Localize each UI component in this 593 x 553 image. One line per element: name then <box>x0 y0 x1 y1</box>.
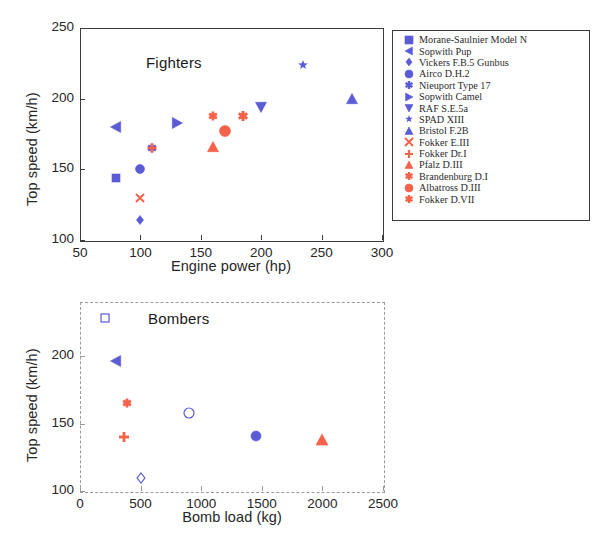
data-point-marker <box>134 471 148 485</box>
y-tick-label: 200 <box>22 347 74 362</box>
x-tick-label: 100 <box>110 245 170 260</box>
data-point-marker <box>249 429 263 443</box>
legend-item-label: Airco D.H.2 <box>419 68 470 79</box>
data-point-marker <box>134 163 147 176</box>
data-point-marker <box>217 124 232 139</box>
legend-item-label: Fokker E.III <box>419 137 469 148</box>
y-tick-mark <box>80 424 85 425</box>
y-tick-label: 250 <box>22 19 74 34</box>
legend-marker-icon <box>399 34 419 46</box>
fighters-legend: Morane-Saulnier Model NSopwith PupVicker… <box>392 30 590 221</box>
data-point-marker <box>109 354 124 369</box>
y-tick-mark <box>80 356 85 357</box>
x-tick-label: 2000 <box>292 496 352 511</box>
x-tick-label: 200 <box>231 245 291 260</box>
y-tick-label: 100 <box>22 231 74 246</box>
x-tick-mark <box>201 235 202 240</box>
legend-item[interactable]: Nieuport Type 17 <box>393 80 589 91</box>
legend-marker-icon <box>399 182 419 194</box>
legend-marker-icon <box>399 102 419 114</box>
legend-marker-icon <box>399 56 419 68</box>
x-tick-mark <box>140 235 141 240</box>
legend-item-label: Bristol F.2B <box>419 125 469 136</box>
legend-item-label: Sopwith Pup <box>419 46 471 57</box>
legend-item-label: Sopwith Camel <box>419 91 482 102</box>
legend-marker-icon <box>399 45 419 57</box>
x-tick-mark <box>382 235 383 240</box>
data-point-marker <box>134 192 146 204</box>
data-point-marker <box>109 119 124 134</box>
data-point-marker <box>296 58 310 72</box>
legend-marker-icon <box>399 91 419 103</box>
legend-marker-icon <box>399 148 419 160</box>
legend-item[interactable]: Sopwith Camel <box>393 91 589 102</box>
y-tick-label: 100 <box>22 482 74 497</box>
data-point-marker <box>121 397 134 410</box>
legend-marker-icon <box>399 125 419 137</box>
data-point-marker <box>314 432 330 448</box>
y-tick-label: 150 <box>22 415 74 430</box>
data-point-marker <box>146 142 159 155</box>
fighters-y-axis-title: Top speed (km/h) <box>24 92 40 206</box>
y-tick-mark <box>80 491 85 492</box>
data-point-marker <box>254 100 269 115</box>
legend-item-label: Pfalz D.III <box>419 159 463 170</box>
x-tick-label: 250 <box>292 245 352 260</box>
legend-item[interactable]: Morane-Saulnier Model N <box>393 34 589 45</box>
legend-marker-icon <box>399 136 419 148</box>
legend-item[interactable]: Fokker D.VII <box>393 193 589 204</box>
legend-marker-icon <box>399 68 419 80</box>
legend-item-label: Morane-Saulnier Model N <box>419 34 527 45</box>
legend-item-label: Fokker D.VII <box>419 194 474 205</box>
y-tick-label: 200 <box>22 90 74 105</box>
bombers-x-axis-title: Bomb load (kg) <box>134 509 330 525</box>
x-tick-mark <box>201 486 202 491</box>
data-point-marker <box>110 172 122 184</box>
y-tick-mark <box>80 99 85 100</box>
y-tick-mark <box>80 28 85 29</box>
legend-item[interactable]: Albatross D.III <box>393 182 589 193</box>
x-tick-mark <box>383 486 384 491</box>
x-tick-mark <box>322 235 323 240</box>
data-point-marker <box>117 430 131 444</box>
legend-marker-icon <box>399 193 419 205</box>
x-tick-mark <box>262 486 263 491</box>
legend-item[interactable]: Sopwith Pup <box>393 45 589 56</box>
x-tick-label: 0 <box>50 496 110 511</box>
legend-item[interactable]: Airco D.H.2 <box>393 68 589 79</box>
fighters-panel: Fighters Engine power (hp) Top speed (km… <box>0 0 593 280</box>
bombers-y-axis-title: Top speed (km/h) <box>24 348 40 462</box>
legend-item[interactable]: RAF S.E.5a <box>393 102 589 113</box>
data-point-marker <box>169 115 184 130</box>
legend-item[interactable]: Brandenburg D.I <box>393 171 589 182</box>
fighters-chart-label: Fighters <box>146 54 202 71</box>
legend-marker-icon <box>399 113 419 125</box>
x-tick-mark <box>322 486 323 491</box>
legend-item-label: SPAD XIII <box>419 114 464 125</box>
data-point-marker <box>99 312 111 324</box>
legend-item-label: Brandenburg D.I <box>419 171 488 182</box>
legend-marker-icon <box>399 79 419 91</box>
x-tick-label: 500 <box>111 496 171 511</box>
x-tick-mark <box>261 235 262 240</box>
data-point-marker <box>134 214 147 227</box>
data-point-marker <box>236 109 250 123</box>
bombers-panel: Bombers Bomb load (kg) Top speed (km/h) … <box>0 280 593 553</box>
y-tick-mark <box>80 169 85 170</box>
legend-item-label: Nieuport Type 17 <box>419 80 491 91</box>
legend-item[interactable]: Vickers F.B.5 Gunbus <box>393 57 589 68</box>
data-point-marker <box>206 109 219 122</box>
legend-item[interactable]: SPAD XIII <box>393 114 589 125</box>
legend-item[interactable]: Fokker Dr.I <box>393 148 589 159</box>
legend-item-label: Albatross D.III <box>419 182 481 193</box>
legend-marker-icon <box>399 170 419 182</box>
y-tick-label: 150 <box>22 160 74 175</box>
legend-item[interactable]: Fokker E.III <box>393 137 589 148</box>
x-tick-label: 150 <box>171 245 231 260</box>
legend-item[interactable]: Pfalz D.III <box>393 159 589 170</box>
legend-item[interactable]: Bristol F.2B <box>393 125 589 136</box>
data-point-marker <box>182 406 196 420</box>
fighters-x-axis-title: Engine power (hp) <box>130 258 332 274</box>
data-point-marker <box>205 139 220 154</box>
legend-item-label: RAF S.E.5a <box>419 103 468 114</box>
